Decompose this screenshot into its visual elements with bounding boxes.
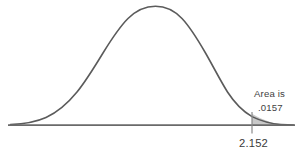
normal-curve-figure: Normal distribution curve with shaded ri…	[0, 0, 301, 152]
normal-curve-svg: Normal distribution curve with shaded ri…	[0, 0, 301, 152]
bell-curve-path	[11, 6, 294, 125]
area-annotation-line1: Area is	[254, 88, 285, 99]
area-annotation-line2: .0157	[258, 102, 283, 113]
axis-tick-label-2152: 2.152	[239, 137, 268, 149]
